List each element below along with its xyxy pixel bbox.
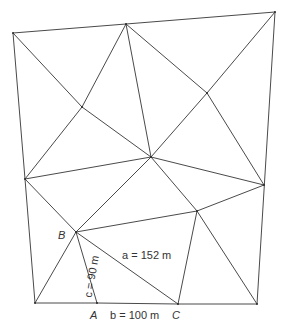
vertex-BL <box>34 302 36 304</box>
edge-P1-P4 <box>13 33 82 107</box>
edge-P3-BR <box>257 12 275 304</box>
edge-BL-P7 <box>25 179 35 303</box>
edge-P5-P8 <box>207 93 264 185</box>
vertex-P7 <box>24 178 26 180</box>
vertex-P9 <box>196 210 198 212</box>
edge-P9-C <box>178 211 197 304</box>
edge-P9-BR <box>197 211 257 304</box>
vertex-P6 <box>150 156 152 158</box>
vertex-BR <box>256 303 258 305</box>
vertex-C <box>177 303 179 305</box>
edge-P7-B <box>25 179 76 232</box>
edge-P2-P5 <box>126 24 207 93</box>
vertex-P8 <box>263 184 265 186</box>
edge-P5-P6 <box>151 93 207 157</box>
vertex-P4 <box>81 106 83 108</box>
edge-P6-P9 <box>151 157 197 211</box>
edge-P9-P8 <box>197 185 264 211</box>
edge-P3-P5 <box>207 12 275 93</box>
vertex-P1 <box>12 32 14 34</box>
edge-C-A <box>97 303 178 304</box>
edge-P2-P6 <box>126 24 151 157</box>
edge-P7-P1 <box>13 33 25 179</box>
edge-P4-P6 <box>82 107 151 157</box>
label-point-a: A <box>90 310 97 321</box>
label-side-a: a = 152 m <box>122 250 171 261</box>
vertex-A <box>96 302 98 304</box>
label-point-b: B <box>58 230 65 241</box>
label-side-b: b = 100 m <box>110 310 159 321</box>
vertex-P2 <box>125 23 127 25</box>
edge-P4-P7 <box>25 107 82 179</box>
edge-B-BL <box>35 232 76 303</box>
edge-P6-P8 <box>151 157 264 185</box>
label-point-c: C <box>172 310 180 321</box>
vertex-P5 <box>206 92 208 94</box>
vertex-B <box>75 231 77 233</box>
edge-P2-P4 <box>82 24 126 107</box>
vertex-P3 <box>274 11 276 13</box>
triangulation-diagram <box>0 0 283 331</box>
edge-P2-P3 <box>126 12 275 24</box>
edge-P1-P2 <box>13 24 126 33</box>
